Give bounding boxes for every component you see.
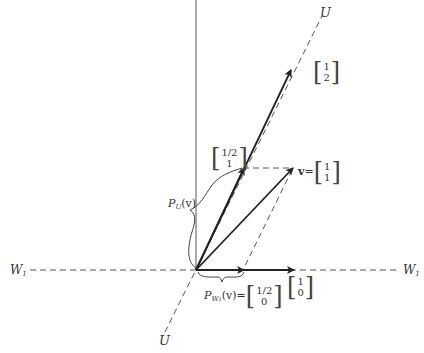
w1-label-left: W1	[10, 264, 27, 278]
pw-sub: W1	[211, 295, 221, 303]
pu-label: PU(v)	[168, 198, 196, 211]
v-top: 1	[324, 161, 330, 172]
vector-label-1-0: [10]	[287, 275, 314, 299]
vector-label-pu: [1/21]	[211, 146, 248, 170]
e12-bottom: 2	[323, 72, 329, 83]
vector-pu	[196, 168, 244, 270]
brace-pu	[189, 168, 242, 268]
pu-label-arg: (v)	[181, 197, 196, 210]
w1-left-sub: 1	[22, 270, 26, 278]
u-label-bottom: U	[159, 334, 170, 347]
brace-pw	[198, 272, 244, 282]
v-bottom: 1	[324, 172, 330, 183]
vector-label-v: v=[11]	[298, 160, 341, 184]
w1-left-text: W	[10, 263, 22, 277]
projection-dash-w	[243, 170, 292, 270]
vector-label-pw: PW1(v)=[1/20]	[204, 284, 283, 308]
v-eq: =	[304, 165, 313, 178]
u-label-top: U	[320, 6, 331, 19]
pw-eq: =	[237, 289, 246, 302]
w1-right-text: W	[403, 263, 415, 277]
e10-bottom: 0	[297, 287, 303, 298]
pu-bottom: 1	[226, 158, 232, 169]
pw-top: 1/2	[256, 285, 272, 296]
w1-right-sub: 1	[415, 270, 419, 278]
w1-label-right: W1	[403, 264, 420, 278]
vector-label-1-2: [12]	[313, 60, 340, 84]
pw-bottom: 0	[261, 296, 267, 307]
e12-top: 1	[323, 61, 329, 72]
pw-sub-w: W	[211, 295, 218, 303]
e10-top: 1	[297, 276, 303, 287]
pw-arg: (v)	[222, 289, 237, 302]
vector-v	[196, 168, 293, 270]
pu-top: 1/2	[221, 147, 237, 158]
